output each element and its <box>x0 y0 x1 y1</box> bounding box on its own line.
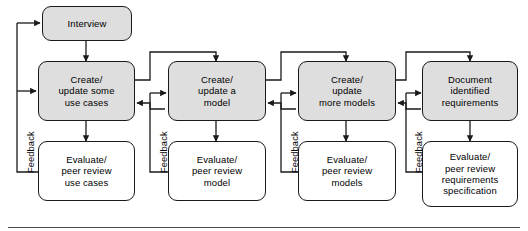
node-create-use-cases-label: Create/ update some use cases <box>58 74 114 108</box>
node-create-model: Create/ update a model <box>168 61 266 121</box>
edge-create4-to-create3 <box>398 103 421 109</box>
bottom-rule <box>8 227 520 228</box>
node-evaluate-use-cases-label: Evaluate/ peer review use cases <box>61 154 111 188</box>
node-evaluate-use-cases: Evaluate/ peer review use cases <box>38 141 135 201</box>
node-create-use-cases: Create/ update some use cases <box>38 61 135 121</box>
node-interview: Interview <box>42 6 132 41</box>
feedback-label-col1: Feedback <box>26 131 36 173</box>
feedback-label-col4: Feedback <box>414 131 424 173</box>
feedback-label-col3: Feedback <box>290 131 300 173</box>
node-create-more-models-label: Create/ update more models <box>319 74 375 108</box>
node-evaluate-requirements-label: Evaluate/ peer review requirements speci… <box>442 151 499 197</box>
edge-create3-to-create2 <box>268 103 296 109</box>
node-evaluate-models-label: Evaluate/ peer review models <box>322 154 372 188</box>
node-document-requirements: Document identified requirements <box>422 61 518 121</box>
node-evaluate-model: Evaluate/ peer review model <box>168 141 266 201</box>
node-evaluate-model-label: Evaluate/ peer review model <box>192 154 242 188</box>
node-evaluate-requirements: Evaluate/ peer review requirements speci… <box>422 141 518 207</box>
node-create-more-models: Create/ update more models <box>298 61 396 121</box>
edge-create2-to-create1 <box>137 103 165 109</box>
node-document-requirements-label: Document identified requirements <box>442 74 499 108</box>
feedback-label-col2: Feedback <box>159 131 169 173</box>
node-create-model-label: Create/ update a model <box>198 74 236 108</box>
node-evaluate-models: Evaluate/ peer review models <box>298 141 396 201</box>
process-flow-diagram: Interview Create/ update some use cases … <box>0 0 528 231</box>
node-interview-label: Interview <box>68 18 107 29</box>
